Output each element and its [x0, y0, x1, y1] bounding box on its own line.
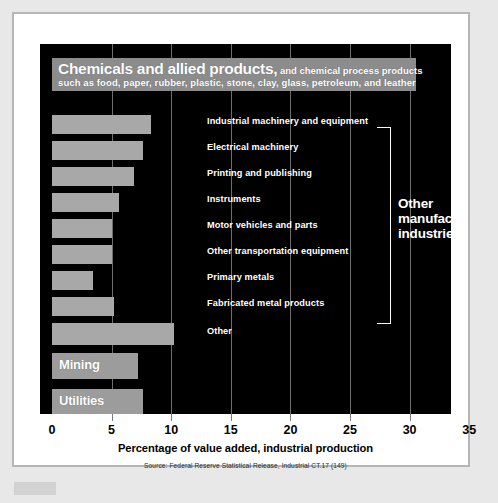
tick-mark-5	[112, 414, 113, 421]
tick-mark-20	[290, 414, 291, 421]
tick-label-0: 0	[49, 423, 56, 437]
tick-mark-30	[410, 414, 411, 421]
label-utilities: Utilities	[59, 393, 104, 408]
series-label-0: Industrial machinery and equipment	[207, 116, 368, 126]
chemicals-subtitle: such as food, paper, rubber, plastic, st…	[58, 77, 416, 88]
bar-printing-publishing	[52, 167, 134, 186]
chart-plot-area: Chemicals and allied products, and chemi…	[40, 44, 451, 414]
tick-label-35: 35	[462, 423, 476, 437]
tick-label-20: 20	[283, 423, 297, 437]
series-label-5: Other transportation equipment	[207, 246, 348, 256]
tick-label-15: 15	[224, 423, 238, 437]
series-label-7: Fabricated metal products	[207, 298, 324, 308]
tick-label-10: 10	[164, 423, 178, 437]
x-axis-title: Percentage of value added, industrial pr…	[40, 442, 451, 454]
chemicals-title-bold: Chemicals and allied products,	[58, 60, 277, 77]
tick-mark-25	[350, 414, 351, 421]
tick-label-5: 5	[108, 423, 115, 437]
bar-industrial-machinery	[52, 115, 151, 134]
series-label-1: Electrical machinery	[207, 142, 298, 152]
series-label-4: Motor vehicles and parts	[207, 220, 318, 230]
bar-other	[52, 323, 174, 345]
chemicals-title: Chemicals and allied products, and chemi…	[58, 60, 422, 78]
annotation-other-manufacturing: Othermanufacturingindustries	[398, 196, 451, 241]
gridline-10	[171, 44, 172, 414]
gridline-25	[350, 44, 351, 414]
bar-electrical-machinery	[52, 141, 143, 160]
x-axis: Percentage of value added, industrial pr…	[40, 414, 451, 474]
source-note: Source: Federal Reserve Statistical Rele…	[40, 462, 451, 469]
series-label-8: Other	[207, 326, 232, 336]
bar-fabricated-metal	[52, 297, 114, 316]
bar-other-transportation	[52, 245, 112, 264]
annotation-line3: industries	[398, 226, 451, 241]
corner-tab-marker	[14, 482, 56, 495]
series-label-6: Primary metals	[207, 272, 274, 282]
series-label-2: Printing and publishing	[207, 168, 312, 178]
chemicals-title-rest: and chemical process products	[277, 65, 422, 76]
page-frame: Chemicals and allied products, and chemi…	[12, 12, 470, 467]
bar-instruments	[52, 193, 119, 212]
tick-label-30: 30	[403, 423, 417, 437]
annotation-line1: Other	[398, 196, 451, 211]
tick-mark-10	[171, 414, 172, 421]
label-mining: Mining	[59, 357, 100, 372]
grouping-bracket	[377, 127, 391, 324]
series-label-3: Instruments	[207, 194, 261, 204]
bar-motor-vehicles	[52, 219, 112, 238]
tick-label-25: 25	[343, 423, 357, 437]
annotation-line2: manufacturing	[398, 211, 451, 226]
bar-primary-metals	[52, 271, 93, 290]
tick-mark-15	[231, 414, 232, 421]
